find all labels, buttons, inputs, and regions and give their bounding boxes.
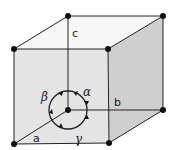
label-a: a <box>33 132 40 145</box>
vertex <box>11 46 17 52</box>
vertex <box>105 46 111 52</box>
label-alpha: α <box>83 85 91 99</box>
label-gamma: γ <box>75 132 83 146</box>
vertex <box>160 13 166 19</box>
unit-cell-diagram: c b a α β γ <box>0 0 171 150</box>
label-c: c <box>72 27 78 40</box>
vertex <box>65 13 71 19</box>
vertex <box>106 140 112 146</box>
origin-vertex <box>65 107 71 113</box>
front-face <box>14 49 109 144</box>
vertex <box>160 107 166 113</box>
label-beta: β <box>40 90 48 104</box>
label-b: b <box>114 96 121 109</box>
vertex <box>11 141 17 147</box>
